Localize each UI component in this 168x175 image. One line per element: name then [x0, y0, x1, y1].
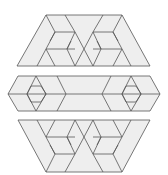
- middle-band: [8, 76, 160, 111]
- top-trapezoid: [17, 15, 150, 66]
- diagram-canvas: [0, 0, 168, 175]
- bottom-trapezoid: [18, 120, 150, 172]
